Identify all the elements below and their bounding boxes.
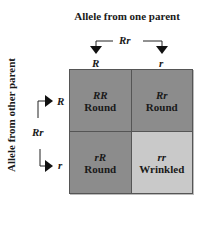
- arrow-right-icon: [45, 160, 53, 172]
- side-allele-R: R: [57, 95, 64, 107]
- top-parent-genotype: Rr: [119, 34, 131, 46]
- top-allele-r: r: [159, 57, 163, 69]
- cell-RR: RR Round: [70, 70, 131, 131]
- arrow-down-icon: [156, 46, 168, 54]
- top-allele-R: R: [92, 57, 99, 69]
- side-parent-genotype: Rr: [32, 126, 44, 138]
- genotype-label: RR: [93, 89, 108, 101]
- phenotype-label: Wrinkled: [139, 163, 184, 175]
- genotype-label: rR: [94, 151, 106, 163]
- phenotype-label: Round: [84, 101, 116, 113]
- punnett-square: RR Round Rr Round rR Round rr Wrinkled: [69, 69, 193, 194]
- cell-rr: rr Wrinkled: [132, 132, 193, 193]
- phenotype-label: Round: [146, 101, 178, 113]
- genotype-label: Rr: [156, 89, 168, 101]
- cell-Rr: Rr Round: [132, 70, 193, 131]
- cell-rR: rR Round: [70, 132, 131, 193]
- genotype-label: rr: [157, 151, 166, 163]
- arrow-down-icon: [90, 46, 102, 54]
- side-allele-r: r: [58, 159, 62, 171]
- arrow-right-icon: [45, 95, 53, 107]
- phenotype-label: Round: [84, 163, 116, 175]
